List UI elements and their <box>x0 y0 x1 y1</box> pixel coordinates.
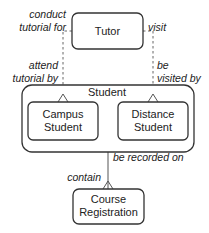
label-tutorial-by: tutorial by <box>12 72 58 84</box>
campus-student-label-line1: Campus <box>43 108 84 120</box>
label-be: be <box>157 59 169 71</box>
er-diagram: Tutor Student Campus Student Distance St… <box>0 0 209 233</box>
tutor-label: Tutor <box>95 25 121 37</box>
label-visited-by: visited by <box>157 72 202 84</box>
label-be-recorded-on: be recorded on <box>113 151 184 163</box>
label-visit: visit <box>148 21 167 33</box>
distance-student-label-line1: Distance <box>132 108 175 120</box>
label-tutorial-for: tutorial for <box>19 21 66 33</box>
entity-tutor[interactable]: Tutor <box>72 13 143 49</box>
label-conduct: conduct <box>29 8 67 20</box>
course-registration-label-line2: Registration <box>79 206 138 218</box>
entity-course-registration[interactable]: Course Registration <box>73 189 144 224</box>
distance-student-label-line2: Student <box>134 121 172 133</box>
student-label: Student <box>88 86 126 98</box>
campus-student-label-line2: Student <box>44 121 82 133</box>
label-contain: contain <box>67 171 101 183</box>
entity-distance-student[interactable]: Distance Student <box>118 102 188 140</box>
relationship-student-registration <box>103 152 113 189</box>
course-registration-label-line1: Course <box>91 193 126 205</box>
entity-campus-student[interactable]: Campus Student <box>28 102 98 140</box>
label-attend: attend <box>29 59 59 71</box>
